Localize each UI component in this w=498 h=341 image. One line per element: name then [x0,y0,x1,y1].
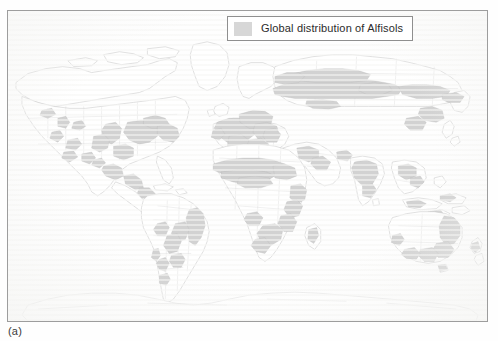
legend-swatch-alfisols [234,22,252,36]
legend-label-alfisols: Global distribution of Alfisols [261,22,403,35]
map-panel: .coast { fill:#ffffff; stroke:#c8c8c8; s… [7,10,488,322]
world-map: .coast { fill:#ffffff; stroke:#c8c8c8; s… [8,11,487,321]
panel-caption: (a) [8,324,22,338]
figure-container: .coast { fill:#ffffff; stroke:#c8c8c8; s… [0,0,498,341]
map-legend: Global distribution of Alfisols [227,16,413,41]
